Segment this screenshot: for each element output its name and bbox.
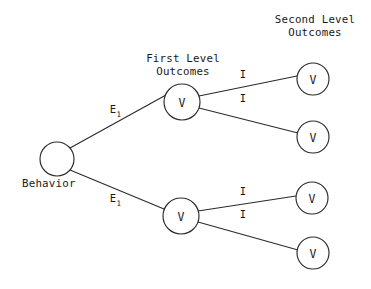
edge-label-instrumentality-1: I xyxy=(240,68,246,80)
second-level-node-4-label: V xyxy=(310,247,317,261)
edge-first-top-to-second-2 xyxy=(199,108,298,133)
node-group xyxy=(40,63,329,269)
behavior-node-circle xyxy=(40,142,74,176)
second-level-heading-line2: Outcomes xyxy=(288,26,342,39)
edge-behavior-to-first-top xyxy=(70,95,166,148)
edge-label-expectancy-top-subscript: 1 xyxy=(117,110,122,119)
expectancy-tree-diagram: V V V V V V E 1 E 1 I I I I First Level xyxy=(0,0,371,289)
edge-first-bottom-to-second-4 xyxy=(198,222,298,250)
edge-label-expectancy-top: E 1 xyxy=(110,103,121,119)
second-level-heading-line1: Second Level xyxy=(275,13,355,26)
edge-label-expectancy-bottom: E 1 xyxy=(110,192,121,208)
tree-canvas: V V V V V V E 1 E 1 I I I I First Level xyxy=(0,0,371,289)
edge-label-instrumentality-3: I xyxy=(240,185,246,197)
edge-first-bottom-to-second-3 xyxy=(198,196,296,211)
edge-first-top-to-second-1 xyxy=(199,76,297,96)
second-level-node-3-label: V xyxy=(309,192,316,206)
first-level-node-top-label: V xyxy=(179,96,186,110)
edge-label-expectancy-bottom-text: E xyxy=(110,192,116,204)
second-level-node-2-label: V xyxy=(310,131,317,145)
first-level-heading-line2: Outcomes xyxy=(156,65,210,78)
edge-label-instrumentality-4: I xyxy=(240,208,246,220)
first-level-heading-line1: First Level xyxy=(146,52,220,65)
edge-label-instrumentality-2: I xyxy=(240,92,246,104)
second-level-node-1-label: V xyxy=(310,73,317,87)
behavior-node-caption: Behavior xyxy=(22,177,76,190)
edge-label-expectancy-bottom-subscript: 1 xyxy=(117,199,122,208)
first-level-node-bottom-label: V xyxy=(178,210,185,224)
edge-label-expectancy-top-text: E xyxy=(110,103,116,115)
